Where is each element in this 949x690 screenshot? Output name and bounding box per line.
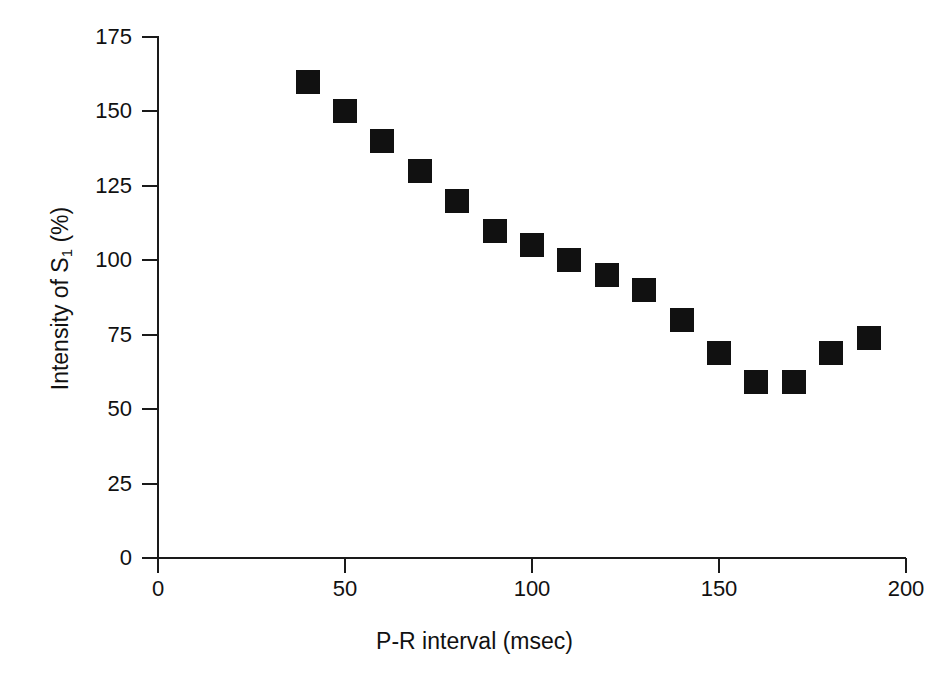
x-axis-tick <box>718 558 720 573</box>
y-axis-tick <box>142 259 158 261</box>
y-axis-title-base: Intensity of S <box>47 257 73 390</box>
x-axis-tick <box>157 546 159 573</box>
data-point-marker <box>370 129 394 153</box>
y-axis-title-subscript: 1 <box>58 249 75 257</box>
y-axis-tick <box>142 334 158 336</box>
x-axis-title: P-R interval (msec) <box>0 628 949 655</box>
y-axis-line <box>157 36 159 560</box>
data-point-marker <box>520 233 544 257</box>
y-axis-tick <box>142 185 158 187</box>
x-axis-tick <box>905 558 907 573</box>
y-axis-tick <box>142 557 158 559</box>
data-point-marker <box>744 370 768 394</box>
x-axis-tick <box>344 558 346 573</box>
data-point-marker <box>595 263 619 287</box>
data-point-marker <box>483 219 507 243</box>
data-point-marker <box>445 189 469 213</box>
y-axis-title-tail: (%) <box>47 207 73 249</box>
y-axis-title: Intensity of S1 (%) <box>47 39 74 559</box>
data-point-marker <box>782 370 806 394</box>
data-point-marker <box>333 99 357 123</box>
data-point-marker <box>819 341 843 365</box>
data-point-marker <box>857 326 881 350</box>
data-point-marker <box>408 159 432 183</box>
data-point-marker <box>670 308 694 332</box>
y-axis-tick <box>142 408 158 410</box>
y-axis-tick <box>142 110 158 112</box>
data-point-marker <box>707 341 731 365</box>
data-point-marker <box>557 248 581 272</box>
data-point-marker <box>632 278 656 302</box>
y-axis-tick <box>142 36 158 38</box>
plot-area-background <box>158 36 906 558</box>
y-axis-tick <box>142 483 158 485</box>
data-point-marker <box>296 70 320 94</box>
scatter-chart-figure: 0255075100125150175 050100150200 P-R int… <box>0 0 949 690</box>
x-axis-tick <box>531 558 533 573</box>
